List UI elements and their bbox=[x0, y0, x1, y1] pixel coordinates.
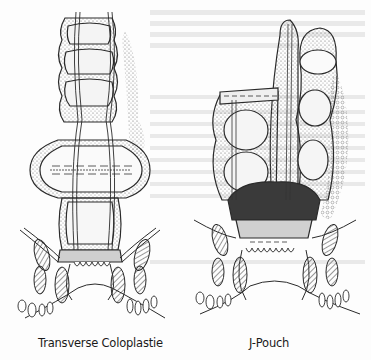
caption-j-pouch: J-Pouch bbox=[249, 336, 289, 350]
book-page: Transverse Coloplastie J-Pouch bbox=[0, 0, 371, 360]
j-pouch-illustration bbox=[180, 0, 371, 330]
caption-transverse-coloplasty: Transverse Coloplastie bbox=[38, 336, 163, 350]
transverse-coloplasty-illustration bbox=[0, 0, 190, 330]
